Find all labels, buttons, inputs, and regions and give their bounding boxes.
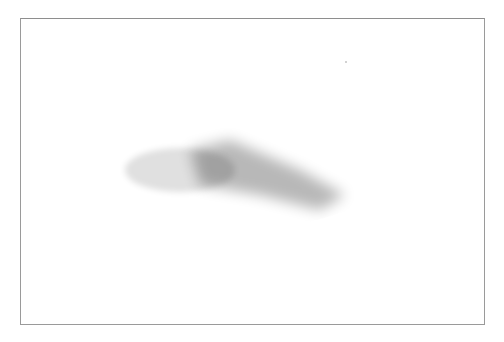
illusion-scene xyxy=(0,0,504,342)
swatch-c xyxy=(0,284,32,316)
speck xyxy=(345,61,347,63)
cylinder-shadow xyxy=(125,140,345,210)
